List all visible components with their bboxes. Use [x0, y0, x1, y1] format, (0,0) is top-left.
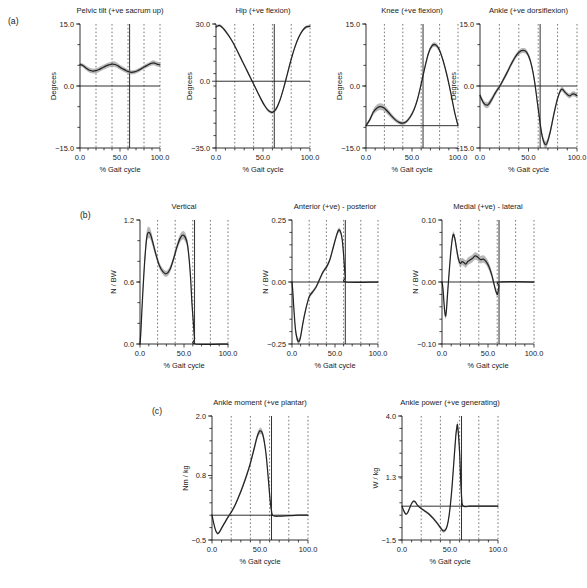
- x-tick-label: 100.0: [301, 153, 320, 162]
- panel-grf-medial-lateral: Medial (+ve) - lateral0.050.0100.0% Gait…: [390, 196, 546, 392]
- row-label-c: (c): [152, 406, 162, 416]
- chart-ankle-moment: Ankle moment (+ve plantar)0.050.0100.0% …: [160, 392, 320, 588]
- panel-grf-vertical: Vertical0.050.0100.0% Gait cycle0.00.61.…: [88, 196, 240, 392]
- y-tick-label: 2.0: [196, 412, 206, 421]
- x-tick-label: 0.0: [437, 349, 447, 358]
- x-tick-label: 50.0: [521, 153, 535, 162]
- x-tick-label: 50.0: [253, 545, 267, 554]
- y-tick-label: 0.10: [422, 216, 436, 225]
- y-ticks: [76, 24, 80, 148]
- chart-pelvic-tilt: Pelvic tilt (+ve sacrum up)0.050.0100.0%…: [34, 0, 170, 196]
- x-ticks: [80, 148, 160, 152]
- x-tick-label: 100.0: [151, 153, 170, 162]
- x-tick-label: 100.0: [489, 545, 508, 554]
- y-tick-label: 0.00: [272, 278, 286, 287]
- row-label-a: (a): [8, 16, 19, 26]
- y-tick-label: −0.10: [417, 340, 436, 349]
- gridlines-dotted: [231, 416, 308, 540]
- gridlines-dotted: [235, 24, 310, 148]
- figure-row-c: Ankle moment (+ve plantar)0.050.0100.0% …: [0, 392, 587, 588]
- x-axis-label: % Gait cycle: [99, 165, 140, 174]
- mean-curve: [480, 50, 577, 144]
- chart-grf-anterior-posterior: Anterior (+ve) - posterior0.050.0100.0% …: [240, 196, 390, 392]
- y-tick-label: 0.8: [196, 471, 206, 480]
- y-tick-label: −0.25: [267, 340, 286, 349]
- sd-band: [480, 48, 577, 148]
- x-ticks: [442, 344, 534, 348]
- x-axis-label: % Gait cycle: [163, 361, 204, 370]
- y-ticks: [362, 24, 366, 148]
- mean-curve: [212, 431, 308, 534]
- y-tick-label: −15.0: [455, 144, 474, 153]
- axes: [212, 416, 308, 540]
- x-tick-label: 50.0: [328, 349, 342, 358]
- chart-hip: Hip (+ve flexion)0.050.0100.0% Gait cycl…: [170, 0, 320, 196]
- x-tick-label: 0.0: [361, 153, 371, 162]
- y-tick-label: −15.0: [341, 144, 360, 153]
- y-tick-label: 0.0: [464, 82, 474, 91]
- x-tick-label: 100.0: [369, 349, 388, 358]
- y-tick-label: 15.0: [460, 20, 474, 29]
- y-axis-label: N / BW: [261, 270, 270, 293]
- x-ticks: [480, 148, 577, 152]
- y-tick-label: 0.0: [200, 77, 210, 86]
- x-tick-label: 0.0: [75, 153, 85, 162]
- y-tick-label: 15.0: [60, 20, 74, 29]
- y-axis-label: Degrees: [185, 72, 194, 100]
- y-ticks: [212, 24, 216, 148]
- sd-band: [402, 421, 498, 533]
- mean-curve: [80, 63, 160, 73]
- x-tick-label: 0.0: [135, 349, 145, 358]
- chart-title: Vertical: [172, 202, 197, 211]
- y-tick-label: 30.0: [196, 20, 210, 29]
- panel-ankle-power: Ankle power (+ve generating)0.050.0100.0…: [350, 392, 510, 588]
- chart-ankle-power: Ankle power (+ve generating)0.050.0100.0…: [350, 392, 510, 588]
- y-tick-label: 0.6: [124, 278, 134, 287]
- y-tick-label: 0.0: [124, 340, 134, 349]
- y-tick-label: 15.0: [346, 20, 360, 29]
- x-ticks: [292, 344, 378, 348]
- panel-grf-anterior-posterior: Anterior (+ve) - posterior0.050.0100.0% …: [240, 196, 390, 392]
- y-tick-label: 0.25: [272, 216, 286, 225]
- x-tick-label: 50.0: [405, 153, 419, 162]
- y-tick-label: 1.2: [124, 216, 134, 225]
- y-ticks: [288, 220, 292, 344]
- figure-row-b: Vertical0.050.0100.0% Gait cycle0.00.61.…: [0, 196, 587, 392]
- y-tick-label: 0.0: [350, 82, 360, 91]
- gridlines-dotted: [158, 220, 228, 344]
- chart-ankle-angle: Ankle (+ve dorsiflexion)0.050.0100.0% Ga…: [434, 0, 587, 196]
- chart-title: Pelvic tilt (+ve sacrum up): [76, 6, 164, 15]
- y-tick-label: 0.00: [422, 278, 436, 287]
- row-label-b: (b): [80, 210, 91, 220]
- x-tick-label: 100.0: [568, 153, 587, 162]
- x-ticks: [216, 148, 310, 152]
- x-ticks: [212, 540, 308, 544]
- y-axis-label: Degrees: [49, 72, 58, 100]
- mean-curve: [442, 234, 534, 316]
- x-tick-label: 50.0: [113, 153, 127, 162]
- x-tick-label: 0.0: [211, 153, 221, 162]
- y-ticks: [438, 220, 442, 344]
- x-axis-label: % Gait cycle: [508, 165, 549, 174]
- chart-grf-medial-lateral: Medial (+ve) - lateral0.050.0100.0% Gait…: [390, 196, 546, 392]
- y-tick-label: −1.5: [381, 536, 396, 545]
- panel-ankle-angle: Ankle (+ve dorsiflexion)0.050.0100.0% Ga…: [434, 0, 587, 196]
- x-axis-label: % Gait cycle: [242, 165, 283, 174]
- chart-title: Ankle (+ve dorsiflexion): [489, 6, 569, 15]
- x-tick-label: 0.0: [207, 545, 217, 554]
- y-axis-label: N / BW: [109, 270, 118, 293]
- y-axis-label: W / kg: [371, 468, 380, 489]
- mean-curve: [216, 25, 310, 112]
- x-tick-label: 0.0: [397, 545, 407, 554]
- y-tick-label: 4.0: [386, 412, 396, 421]
- chart-title: Anterior (+ve) - posterior: [294, 202, 377, 211]
- x-tick-label: 50.0: [481, 349, 495, 358]
- x-axis-label: % Gait cycle: [429, 557, 470, 566]
- axes: [402, 416, 498, 540]
- chart-title: Ankle power (+ve generating): [400, 398, 500, 407]
- x-axis-label: % Gait cycle: [314, 361, 355, 370]
- mean-curve: [402, 425, 498, 531]
- x-axis-label: % Gait cycle: [391, 165, 432, 174]
- x-axis-label: % Gait cycle: [467, 361, 508, 370]
- panel-pelvic-tilt: Pelvic tilt (+ve sacrum up)0.050.0100.0%…: [34, 0, 170, 196]
